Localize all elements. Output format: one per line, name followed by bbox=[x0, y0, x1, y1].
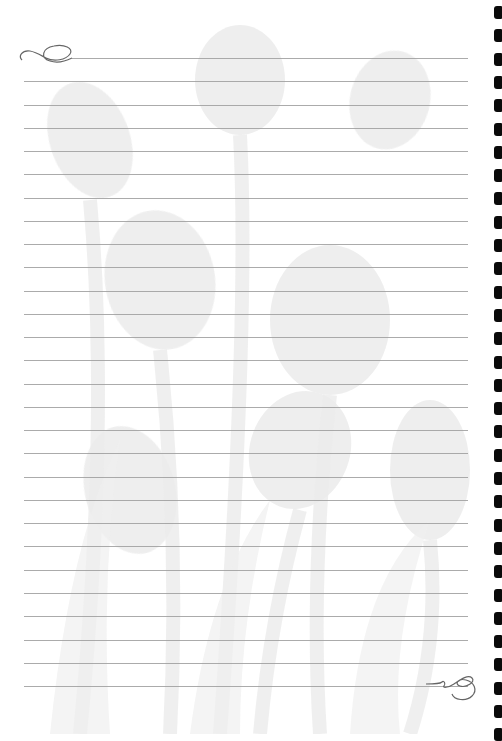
ruled-line bbox=[24, 546, 468, 547]
binding-hole bbox=[494, 332, 502, 345]
binding-hole bbox=[494, 542, 502, 555]
binding-hole bbox=[494, 262, 502, 275]
ruled-line bbox=[24, 291, 468, 292]
binding-hole bbox=[494, 99, 502, 112]
ruled-line bbox=[24, 453, 468, 454]
ruled-line bbox=[24, 337, 468, 338]
binding-hole bbox=[494, 286, 502, 299]
binding-hole bbox=[494, 519, 502, 532]
binding-hole bbox=[494, 658, 502, 671]
binding-hole bbox=[494, 705, 502, 718]
binding-hole bbox=[494, 309, 502, 322]
ruled-line bbox=[24, 360, 468, 361]
ruled-line bbox=[24, 198, 468, 199]
binding-hole bbox=[494, 612, 502, 625]
binding-hole bbox=[494, 565, 502, 578]
swirl-flourish-icon bbox=[14, 42, 74, 66]
ruled-line bbox=[24, 221, 468, 222]
binding-hole bbox=[494, 239, 502, 252]
swirl-flourish-icon bbox=[426, 670, 480, 706]
binding-hole bbox=[494, 589, 502, 602]
binding-hole bbox=[494, 146, 502, 159]
binding-hole bbox=[494, 425, 502, 438]
ruled-line bbox=[24, 314, 468, 315]
binding-hole bbox=[494, 123, 502, 136]
ruled-line bbox=[24, 570, 468, 571]
binding-hole bbox=[494, 682, 502, 695]
ruled-line bbox=[24, 81, 468, 82]
ruled-line bbox=[24, 105, 468, 106]
binding-hole bbox=[494, 76, 502, 89]
ruled-line bbox=[24, 477, 468, 478]
ruled-line bbox=[24, 523, 468, 524]
ruled-line bbox=[24, 500, 468, 501]
binding-hole bbox=[494, 53, 502, 66]
ruled-line bbox=[24, 267, 468, 268]
binding-hole bbox=[494, 495, 502, 508]
binding-hole bbox=[494, 449, 502, 462]
ruled-line bbox=[24, 151, 468, 152]
binding-hole bbox=[494, 472, 502, 485]
binding-hole bbox=[494, 635, 502, 648]
ruled-line bbox=[24, 663, 468, 664]
ruled-line bbox=[24, 128, 468, 129]
ruled-line bbox=[24, 430, 468, 431]
ruled-line bbox=[24, 384, 468, 385]
ruled-line bbox=[24, 174, 468, 175]
ruled-line bbox=[24, 407, 468, 408]
binding-hole bbox=[494, 216, 502, 229]
binding-hole bbox=[494, 6, 502, 19]
binding-hole bbox=[494, 356, 502, 369]
ruled-line bbox=[72, 58, 468, 59]
binding-hole bbox=[494, 402, 502, 415]
binding-hole bbox=[494, 192, 502, 205]
ruled-line bbox=[24, 244, 468, 245]
binding-hole bbox=[494, 379, 502, 392]
ruled-line bbox=[24, 686, 468, 687]
ruled-line bbox=[24, 593, 468, 594]
binding-hole bbox=[494, 29, 502, 42]
ruled-line bbox=[24, 640, 468, 641]
binding-hole bbox=[494, 728, 502, 741]
ruled-line bbox=[24, 616, 468, 617]
binding-hole bbox=[494, 169, 502, 182]
